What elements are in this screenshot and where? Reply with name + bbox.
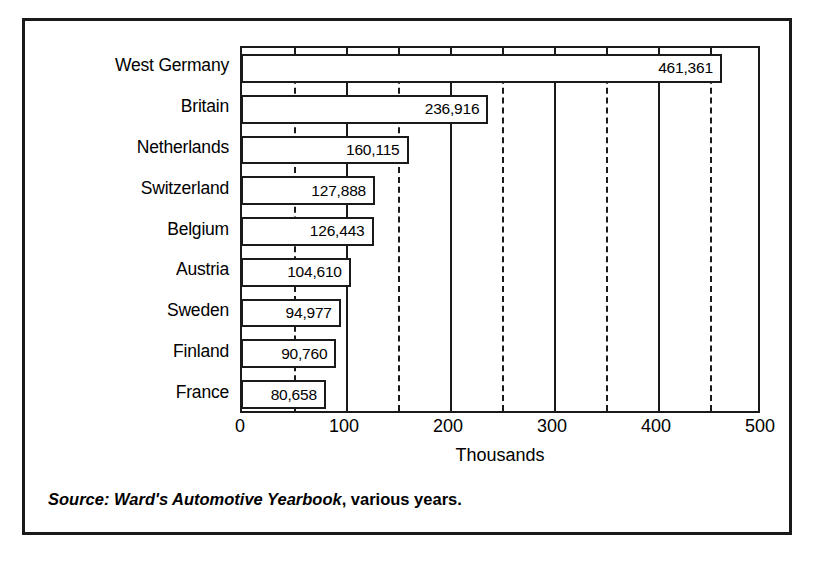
bar-row: 94,977: [242, 299, 758, 328]
bar-row: 160,115: [242, 136, 758, 165]
bar-row: 90,760: [242, 339, 758, 368]
category-label-britain: Britain: [181, 98, 229, 116]
bar-sweden: 94,977: [241, 299, 341, 328]
bar-value-label: 80,658: [271, 387, 317, 403]
source-note: Source: Ward's Automotive Yearbook, vari…: [48, 490, 462, 508]
bar-west-germany: 461,361: [241, 54, 722, 83]
x-tick-label-500: 500: [745, 417, 775, 435]
bar-series: 461,361236,916160,115127,888126,443104,6…: [242, 48, 758, 411]
category-label-austria: Austria: [176, 261, 229, 279]
source-italic: Source: Ward's Automotive Yearbook: [48, 490, 342, 508]
plot-area: 461,361236,916160,115127,888126,443104,6…: [240, 46, 760, 413]
x-tick-label-0: 0: [235, 417, 245, 435]
category-label-switzerland: Switzerland: [141, 180, 229, 198]
bar-row: 126,443: [242, 217, 758, 246]
bar-value-label: 461,361: [658, 61, 713, 77]
bar-switzerland: 127,888: [241, 176, 375, 205]
x-tick-label-100: 100: [329, 417, 359, 435]
bar-row: 104,610: [242, 258, 758, 287]
figure-frame: West GermanyBritainNetherlandsSwitzerlan…: [22, 18, 792, 535]
bar-value-label: 236,916: [425, 101, 480, 117]
x-tick-label-400: 400: [641, 417, 671, 435]
bar-value-label: 90,760: [281, 346, 327, 362]
bar-value-label: 94,977: [286, 305, 332, 321]
x-tick-label-200: 200: [433, 417, 463, 435]
bar-value-label: 104,610: [287, 265, 342, 281]
x-tick-label-300: 300: [537, 417, 567, 435]
bar-britain: 236,916: [241, 95, 488, 124]
bar-row: 236,916: [242, 95, 758, 124]
bar-finland: 90,760: [241, 339, 336, 368]
bar-value-label: 160,115: [346, 142, 399, 158]
bar-row: 127,888: [242, 176, 758, 205]
category-label-belgium: Belgium: [167, 221, 229, 239]
bar-value-label: 126,443: [310, 224, 365, 240]
category-axis: West GermanyBritainNetherlandsSwitzerlan…: [33, 46, 229, 413]
category-label-france: France: [176, 384, 229, 402]
bar-belgium: 126,443: [241, 217, 374, 246]
x-axis-title: Thousands: [240, 446, 760, 464]
category-label-netherlands: Netherlands: [137, 139, 229, 157]
bar-value-label: 127,888: [311, 183, 366, 199]
bar-netherlands: 160,115: [241, 136, 409, 165]
figure: West GermanyBritainNetherlandsSwitzerlan…: [0, 0, 815, 564]
bar-austria: 104,610: [241, 258, 351, 287]
category-label-sweden: Sweden: [167, 302, 229, 320]
source-upright: , various years.: [342, 490, 462, 508]
category-label-west-germany: West Germany: [115, 57, 229, 75]
bar-row: 461,361: [242, 54, 758, 83]
bar-row: 80,658: [242, 380, 758, 409]
category-label-finland: Finland: [173, 343, 229, 361]
bar-france: 80,658: [241, 380, 326, 409]
